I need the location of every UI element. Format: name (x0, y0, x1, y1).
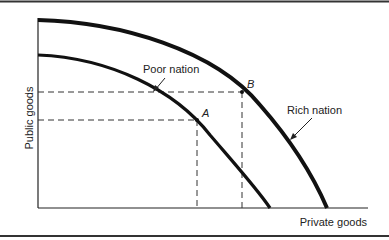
poor-nation-curve (38, 55, 270, 208)
x-axis-label: Private goods (300, 216, 368, 228)
point-a-marker (195, 118, 199, 122)
rich-arrow (294, 118, 312, 136)
point-b-label: B (247, 78, 254, 90)
point-b-marker (240, 90, 244, 94)
y-axis-label: Public goods (23, 86, 35, 149)
rich-nation-curve (38, 20, 327, 208)
ppf-chart: Public goods Private goods Poor nation R… (0, 0, 389, 240)
point-a-label: A (201, 107, 209, 119)
poor-nation-label: Poor nation (143, 63, 199, 75)
rich-nation-label: Rich nation (287, 104, 342, 116)
